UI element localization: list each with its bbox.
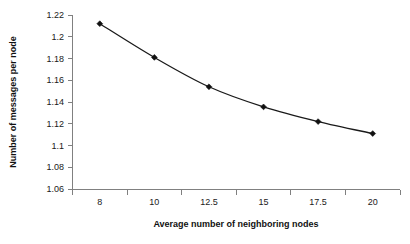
x-tick-label: 17.5 — [309, 197, 327, 207]
y-tick-label: 1.06 — [46, 184, 64, 194]
x-tick-label: 20 — [368, 197, 378, 207]
y-tick-label: 1.18 — [46, 54, 64, 64]
chart-figure: 1.221.21.181.161.141.121.11.081.06 81012… — [0, 0, 410, 244]
y-tick-label: 1.12 — [46, 119, 64, 129]
x-tick-label: 15 — [259, 197, 269, 207]
y-tick-label: 1.14 — [46, 97, 64, 107]
x-tick-label: 10 — [149, 197, 159, 207]
y-tick-label: 1.2 — [51, 32, 64, 42]
y-tick-label: 1.22 — [46, 10, 64, 20]
y-tick-label: 1.16 — [46, 75, 64, 85]
line-chart: 1.221.21.181.161.141.121.11.081.06 81012… — [0, 0, 410, 244]
x-axis-title: Average number of neighboring nodes — [153, 219, 318, 229]
y-tick-label: 1.08 — [46, 162, 64, 172]
x-tick-label: 12.5 — [200, 197, 218, 207]
x-tick-label: 8 — [97, 197, 102, 207]
y-axis-title: Number of messages per node — [8, 36, 18, 168]
y-tick-label: 1.1 — [51, 141, 64, 151]
